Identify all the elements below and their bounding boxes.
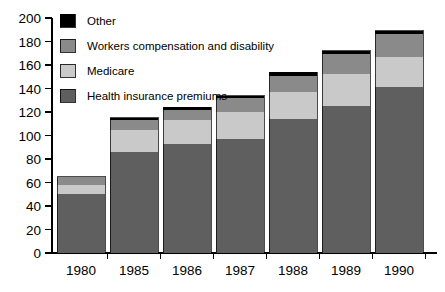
bar-1985 — [110, 118, 158, 253]
bar-segment — [269, 92, 317, 119]
bar-1980 — [57, 177, 105, 253]
bar-segment — [375, 34, 423, 56]
bar-segment — [57, 177, 105, 185]
bar-segment — [322, 74, 370, 106]
legend-label-health-insurance-premiums: Health insurance premiums — [87, 90, 227, 102]
bar-1986 — [163, 107, 211, 253]
chart-canvas: 200 180 160 140 120 100 80 60 40 20 0 19… — [0, 0, 445, 292]
bar-segment — [57, 194, 105, 253]
y-tick-label: 80 — [26, 152, 41, 167]
y-tick-label: 200 — [18, 11, 41, 26]
legend-swatch-workers-compensation — [60, 39, 75, 52]
x-tick-label-1985: 1985 — [119, 263, 149, 278]
y-tick-label: 100 — [18, 129, 41, 144]
bar-segment — [163, 120, 211, 144]
bar-segment — [163, 144, 211, 253]
bar-segment — [216, 139, 264, 253]
bar-segment — [163, 110, 211, 121]
bar-segment — [57, 185, 105, 194]
bar-segment — [110, 130, 158, 152]
bar-segment — [269, 119, 317, 253]
x-tick-label-1990: 1990 — [384, 263, 414, 278]
legend-label-medicare: Medicare — [87, 65, 134, 77]
bar-segment — [216, 112, 264, 139]
bar-segment — [110, 118, 158, 120]
stacked-bar-chart: 200 180 160 140 120 100 80 60 40 20 0 19… — [0, 0, 445, 292]
bar-1990 — [375, 31, 423, 253]
y-tick-label: 160 — [18, 58, 41, 73]
bar-1987 — [216, 96, 264, 253]
x-tick-label-1989: 1989 — [331, 263, 361, 278]
bar-segment — [375, 57, 423, 88]
y-tick-label: 60 — [26, 176, 41, 191]
bar-1989 — [322, 51, 370, 253]
y-tick-label: 40 — [26, 199, 41, 214]
x-tick-label-1987: 1987 — [225, 263, 255, 278]
legend-swatch-health-insurance-premiums — [60, 89, 75, 102]
y-tick-label: 0 — [33, 246, 41, 261]
legend-swatch-medicare — [60, 64, 75, 77]
legend-label-other: Other — [87, 15, 116, 27]
bar-segment — [110, 152, 158, 253]
bar-segment — [110, 120, 158, 129]
bar-segment — [269, 76, 317, 92]
legend-swatch-other — [60, 14, 75, 27]
bar-segment — [269, 72, 317, 76]
y-tick-label: 140 — [18, 82, 41, 97]
bar-segment — [322, 106, 370, 253]
y-tick-label: 120 — [18, 105, 41, 120]
x-tick-label-1980: 1980 — [66, 263, 96, 278]
bar-segment — [322, 51, 370, 55]
bar-segment — [375, 87, 423, 253]
x-tick-label-1986: 1986 — [172, 263, 202, 278]
x-tick-label-1988: 1988 — [278, 263, 308, 278]
bar-1988 — [269, 72, 317, 253]
bar-segment — [163, 107, 211, 109]
legend-label-workers-compensation: Workers compensation and disability — [87, 40, 274, 52]
y-tick-label: 180 — [18, 35, 41, 50]
y-tick-label: 20 — [26, 223, 41, 238]
bar-segment — [322, 54, 370, 74]
bar-segment — [375, 31, 423, 35]
